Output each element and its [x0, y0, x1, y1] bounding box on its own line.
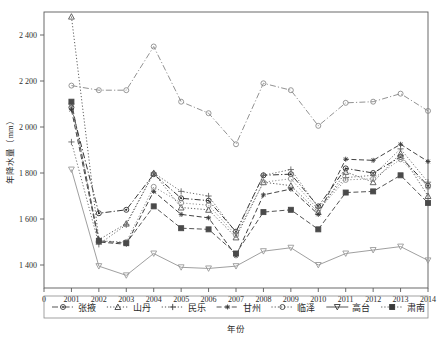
legend-marker-circle-icon: [280, 305, 285, 310]
legend-marker-plus-icon: [170, 304, 176, 310]
legend-marker-square-icon: [390, 305, 395, 310]
series-path: [71, 107, 428, 231]
series-markers: [69, 99, 431, 256]
series-5: [69, 102, 431, 245]
series-path: [71, 102, 428, 254]
y-tick-label: 2 200: [19, 77, 37, 86]
precipitation-line-chart: 1 4001 6001 8002 0002 2002 400 020012002…: [0, 0, 437, 350]
series-layer: [68, 14, 431, 279]
series-7: [69, 99, 431, 256]
series-markers: [69, 107, 431, 258]
series-path: [71, 17, 428, 240]
legend-label: 张掖: [78, 302, 96, 313]
series-markers: [69, 105, 431, 234]
legend-label: 民乐: [188, 302, 206, 313]
series-markers: [69, 44, 431, 147]
y-tick-label: 2 400: [19, 31, 37, 40]
series-markers: [69, 167, 431, 278]
y-axis-ticks: 1 4001 6001 8002 0002 2002 400: [19, 31, 44, 270]
series-1: [69, 105, 431, 234]
legend-label: 山丹: [133, 303, 151, 313]
series-path: [71, 47, 428, 145]
series-6: [69, 167, 431, 278]
legend-item-2[interactable]: 山丹: [107, 303, 151, 313]
legend-label: 甘州: [243, 302, 261, 313]
legend-label: 高台: [352, 302, 370, 313]
legend-label: 临泽: [297, 302, 315, 313]
series-3: [68, 139, 431, 248]
y-tick-label: 1 400: [19, 261, 37, 270]
series-4: [69, 107, 431, 258]
series-markers: [69, 102, 431, 245]
series-8: [69, 44, 431, 147]
x-axis-title: 年份: [227, 324, 245, 334]
y-axis-title: 年降水量（mm）: [5, 116, 15, 183]
series-path: [71, 104, 428, 242]
y-tick-label: 2 000: [19, 123, 37, 132]
plot-frame: [44, 12, 428, 288]
y-tick-label: 1 600: [19, 215, 37, 224]
legend-label: 肃南: [407, 302, 425, 313]
chart-canvas: 1 4001 6001 8002 0002 2002 400 020012002…: [0, 0, 437, 350]
series-markers: [68, 139, 431, 248]
legend-marker-star-icon: [225, 305, 230, 310]
y-tick-label: 1 800: [19, 169, 37, 178]
